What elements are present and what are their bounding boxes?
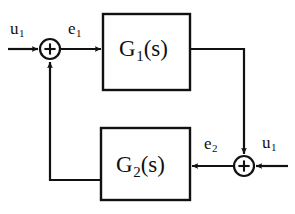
signal-label-e2: e2 — [204, 135, 218, 154]
signal-label-u1-left: u1 — [10, 20, 25, 39]
signal-base-e1: e — [68, 19, 76, 38]
block-suffix-g2: (s) — [141, 152, 165, 177]
block-diagram-graphics — [0, 0, 295, 214]
block-label-g1: G1(s) — [119, 37, 168, 64]
signal-label-e1: e1 — [68, 20, 82, 39]
signal-subscript-e2: 2 — [212, 142, 218, 154]
block-subscript-g1: 1 — [136, 48, 144, 64]
block-diagram-canvas: u1 e1 e2 u1 G1(s) G2(s) — [0, 0, 295, 214]
signal-base-e2: e — [204, 134, 212, 153]
signal-base-u1-left: u — [10, 19, 19, 38]
block-base-g1: G — [119, 36, 136, 61]
signal-subscript-u1-right: 1 — [271, 141, 277, 153]
wire-g2-feedback-to-sum-left — [50, 62, 101, 180]
signal-subscript-u1-left: 1 — [19, 27, 25, 39]
block-subscript-g2: 2 — [133, 164, 141, 180]
block-suffix-g1: (s) — [144, 36, 168, 61]
signal-label-u1-right: u1 — [262, 134, 277, 153]
block-base-g2: G — [116, 152, 133, 177]
signal-subscript-e1: 1 — [76, 27, 82, 39]
signal-base-u1-right: u — [262, 133, 271, 152]
block-label-g2: G2(s) — [116, 153, 165, 180]
